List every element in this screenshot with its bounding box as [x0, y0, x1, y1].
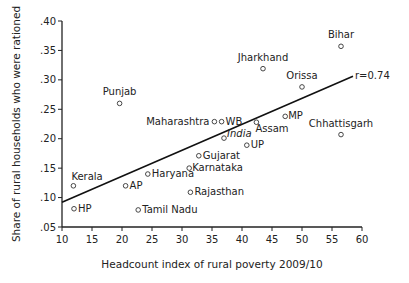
- data-point: HP: [72, 203, 92, 214]
- point-marker-icon: [212, 119, 217, 124]
- point-label: WB: [226, 116, 243, 127]
- point-label: Bihar: [328, 29, 355, 40]
- point-marker-icon: [219, 119, 224, 124]
- x-axis: 1015202530354045505560: [56, 227, 369, 245]
- point-marker-icon: [123, 184, 128, 189]
- data-point: Haryana: [146, 168, 195, 179]
- point-label: Rajasthan: [194, 186, 244, 197]
- correlation-label: r=0.74: [355, 70, 390, 81]
- scatter-chart: .05.10.15.20.25.30.35.40 101520253035404…: [0, 0, 409, 283]
- point-label: Assam: [255, 123, 288, 134]
- data-point: Bihar: [328, 29, 355, 48]
- point-marker-icon: [261, 66, 266, 71]
- y-tick-label: .10: [40, 192, 56, 203]
- y-axis: .05.10.15.20.25.30.35.40: [40, 16, 62, 233]
- x-tick-label: 55: [326, 234, 339, 245]
- point-label: Orissa: [286, 70, 317, 81]
- point-label: Maharashtra: [146, 116, 209, 127]
- point-marker-icon: [300, 85, 305, 90]
- data-point: Maharashtra: [146, 116, 216, 127]
- data-point: Punjab: [103, 86, 137, 105]
- point-marker-icon: [339, 44, 344, 49]
- data-points: BiharJharkhandOrissaPunjabMaharashtraWBM…: [71, 29, 373, 215]
- x-tick-label: 40: [236, 234, 249, 245]
- point-label: MP: [288, 110, 303, 121]
- point-marker-icon: [245, 143, 250, 148]
- x-tick-label: 30: [176, 234, 189, 245]
- point-label: Punjab: [103, 86, 137, 97]
- data-point: Gujarat: [197, 150, 241, 161]
- data-point: AP: [123, 180, 142, 191]
- x-tick-label: 50: [296, 234, 309, 245]
- y-tick-label: .30: [40, 74, 56, 85]
- point-label: Tamil Nadu: [141, 204, 197, 215]
- data-point: Rajasthan: [188, 186, 244, 197]
- point-marker-icon: [339, 132, 344, 137]
- data-point: MP: [283, 110, 303, 121]
- point-marker-icon: [117, 101, 122, 106]
- y-axis-label: Share of rural households who were ratio…: [10, 6, 22, 242]
- x-tick-label: 15: [86, 234, 99, 245]
- x-tick-label: 25: [146, 234, 159, 245]
- point-marker-icon: [197, 153, 202, 158]
- point-marker-icon: [146, 172, 151, 177]
- y-tick-label: .40: [40, 16, 56, 27]
- point-label: UP: [251, 139, 264, 150]
- point-label: AP: [130, 180, 143, 191]
- x-axis-label: Headcount index of rural poverty 2009/10: [101, 258, 322, 270]
- data-point: UP: [245, 139, 265, 150]
- x-tick-label: 10: [56, 234, 69, 245]
- point-label: India: [227, 128, 252, 139]
- y-tick-label: .15: [40, 163, 56, 174]
- point-marker-icon: [283, 114, 288, 119]
- point-marker-icon: [72, 206, 77, 211]
- point-label: Kerala: [71, 171, 102, 182]
- point-label: Haryana: [152, 168, 194, 179]
- x-tick-label: 20: [116, 234, 129, 245]
- y-tick-label: .35: [40, 45, 56, 56]
- data-point: Karnataka: [187, 162, 243, 173]
- point-marker-icon: [222, 136, 227, 141]
- point-label: HP: [78, 203, 92, 214]
- x-tick-label: 45: [266, 234, 279, 245]
- point-label: Karnataka: [192, 162, 243, 173]
- data-point: Orissa: [286, 70, 317, 89]
- data-point: Tamil Nadu: [136, 204, 198, 215]
- data-point: WB: [219, 116, 242, 127]
- y-tick-label: .25: [40, 104, 56, 115]
- x-tick-label: 35: [206, 234, 219, 245]
- data-point: India: [222, 128, 252, 140]
- x-tick-label: 60: [356, 234, 369, 245]
- point-marker-icon: [136, 208, 141, 213]
- data-point: Jharkhand: [237, 52, 288, 71]
- point-label: Gujarat: [203, 150, 240, 161]
- y-tick-label: .20: [40, 133, 56, 144]
- point-label: Jharkhand: [237, 52, 288, 63]
- y-tick-label: .05: [40, 222, 56, 233]
- point-label: Chhattisgarh: [309, 118, 373, 129]
- point-marker-icon: [71, 184, 76, 189]
- data-point: Chhattisgarh: [309, 118, 373, 137]
- data-point: Kerala: [71, 171, 103, 188]
- data-point: Assam: [254, 120, 288, 134]
- point-marker-icon: [188, 190, 193, 195]
